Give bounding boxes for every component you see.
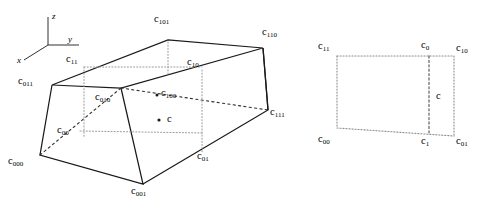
label-cell-centre-c-left: c [167,114,172,125]
cell-front-left-face [40,85,143,184]
label-2d-c00: c00 [318,134,330,145]
label-2d-c1: c1 [421,136,429,147]
label-2d-c0: c0 [421,40,429,51]
hidden-edge-c010-c111 [121,88,268,110]
axis-label-y: y [68,35,72,44]
label-2d-c10: c10 [456,43,468,54]
cell-front-right-outline [143,48,268,184]
label-c011: c011 [18,76,33,87]
dot-c [157,118,160,121]
label-c100: c100 [161,88,176,99]
cell-front-right-face [143,48,268,184]
cell-front-left-outline [40,85,143,184]
label-c001: c001 [131,186,146,197]
label-c01: c01 [197,151,209,162]
label-c101: c101 [154,14,169,25]
label-c11: c11 [66,54,77,65]
dot-c100 [156,94,159,97]
label-c000: c000 [8,156,23,167]
label-2d-c01: c01 [456,136,468,147]
label-c110: c110 [262,27,277,38]
label-2d-c11: c11 [318,41,329,52]
cell-hidden-edges [40,88,268,155]
diagram-svg [0,0,494,213]
cell2d-bottom-edge [337,128,454,136]
label-c00: c00 [57,125,69,136]
cell-centre-dots [156,94,161,122]
label-c10: c10 [187,57,199,68]
axis-x-line [24,45,48,60]
guide-c00-horizontal [80,131,203,133]
label-c111: c111 [270,107,285,118]
label-c010: c010 [95,92,110,103]
figure-canvas: z y x c011 c101 c110 c010 c000 c001 c111… [0,0,494,213]
axis-label-x: x [17,56,21,65]
cell-edge-c111-c110 [263,48,268,110]
axis-label-z: z [52,12,56,21]
label-cell-centre-c-right: c [436,91,441,102]
